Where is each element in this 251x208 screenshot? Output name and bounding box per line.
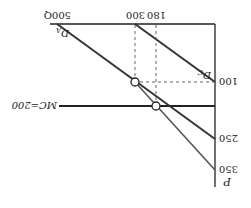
- steep-demand-line: [135, 82, 215, 170]
- x-tick-500: 500Q: [44, 10, 71, 21]
- equilibrium-point-2: [152, 102, 160, 110]
- demand-c-label: DC: [197, 68, 212, 81]
- y-tick-350: 350: [219, 164, 238, 175]
- economics-diagram: P 350 250 100 180 300 500Q MC=200 DA DC: [0, 0, 251, 208]
- x-tick-180: 180: [147, 10, 166, 21]
- mc-label: MC=200: [11, 100, 58, 111]
- y-tick-100: 100: [219, 76, 238, 87]
- equilibrium-point-1: [131, 78, 139, 86]
- y-axis-label: P: [223, 175, 232, 188]
- demand-a-label: DA: [56, 26, 70, 39]
- y-tick-250: 250: [219, 133, 238, 144]
- x-tick-300: 300: [126, 10, 145, 21]
